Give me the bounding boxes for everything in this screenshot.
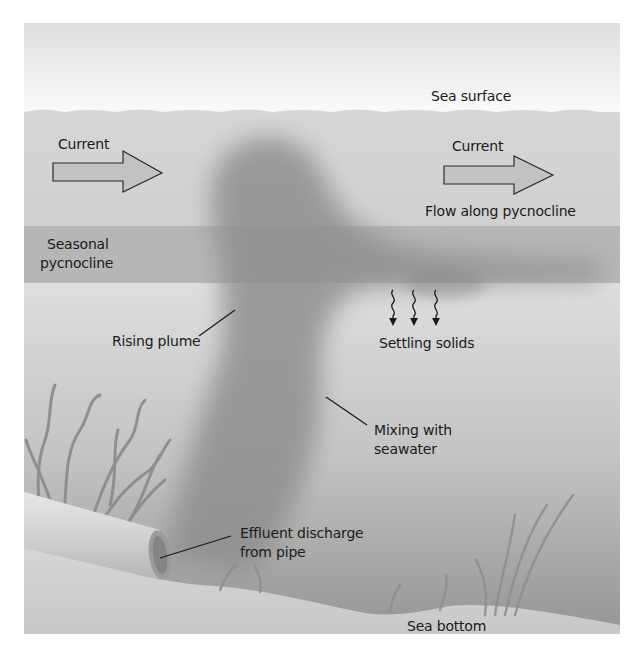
diagram-canvas: [0, 0, 638, 647]
label-effluent-2: from pipe: [240, 544, 306, 561]
label-mixing-2: seawater: [374, 441, 437, 458]
label-sea-bottom: Sea bottom: [407, 618, 486, 635]
label-effluent-1: Effluent discharge: [240, 525, 364, 542]
label-settling-solids: Settling solids: [379, 335, 474, 352]
air-region: [24, 23, 620, 115]
label-current-left: Current: [58, 136, 109, 153]
label-sea-surface: Sea surface: [431, 88, 511, 105]
label-rising-plume: Rising plume: [112, 333, 201, 350]
label-seasonal-pycnocline-2: pycnocline: [40, 255, 113, 272]
label-current-right: Current: [452, 138, 503, 155]
label-flow-along-pycnocline: Flow along pycnocline: [425, 203, 576, 220]
label-seasonal-pycnocline-1: Seasonal: [47, 236, 109, 253]
label-mixing-1: Mixing with: [374, 422, 452, 439]
